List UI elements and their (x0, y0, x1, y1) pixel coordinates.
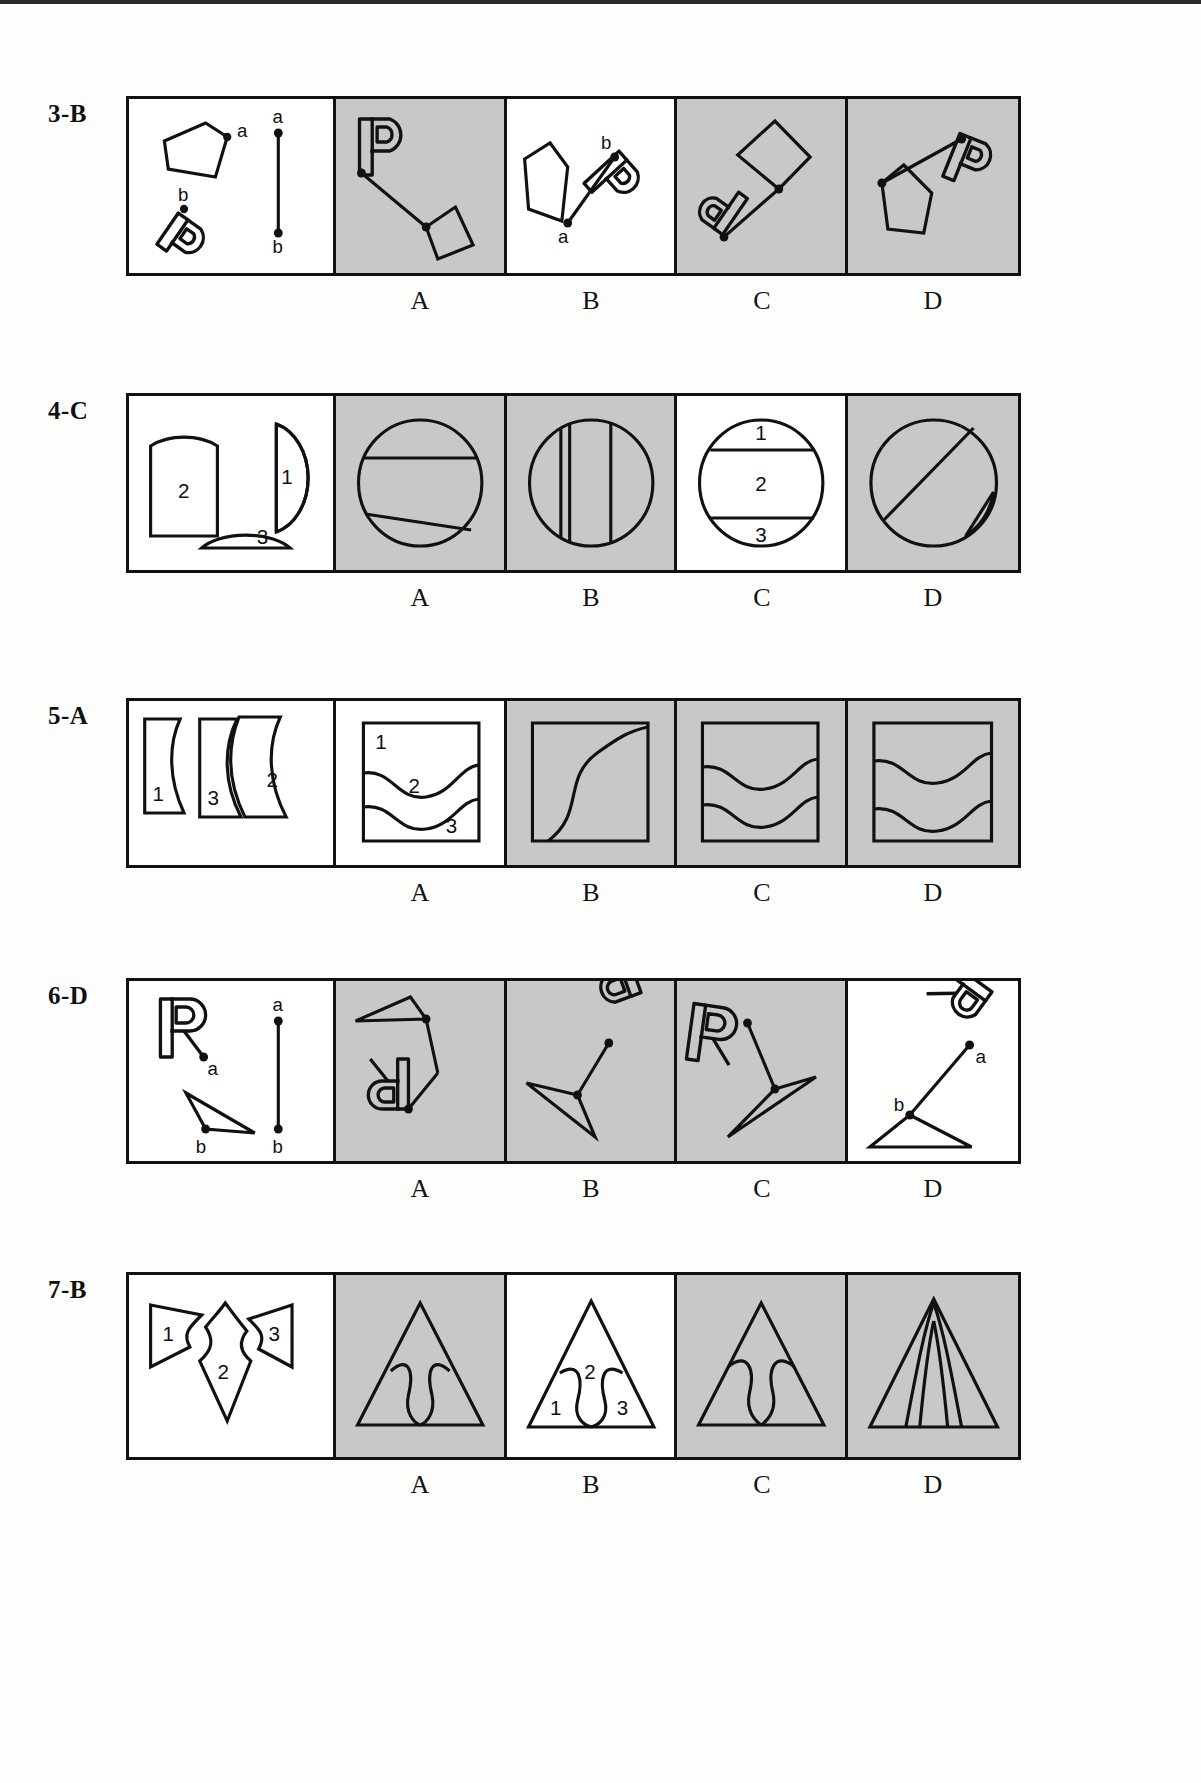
row-5-choice-b: B (571, 878, 611, 908)
row-3-strip: a b a b (126, 96, 1021, 276)
row-6-option-d-label-a: a (975, 1046, 986, 1067)
row-6-stem-label-a2: a (272, 994, 283, 1015)
row-6-strip: a b a b (126, 978, 1021, 1164)
row-5-option-b[interactable] (507, 701, 677, 865)
row-label-7: 7-B (48, 1276, 87, 1304)
row-7-choice-d: D (913, 1470, 953, 1500)
row-7-choice-b: B (571, 1470, 611, 1500)
row-5-stem-num-2: 2 (267, 768, 278, 791)
row-6-option-d-label-b: b (893, 1094, 904, 1115)
row-5-option-c[interactable] (677, 701, 847, 865)
row-4-stem-panel: 2 1 3 (129, 396, 336, 570)
row-5-option-d[interactable] (848, 701, 1018, 865)
row-4-choice-d: D (913, 583, 953, 613)
row-7-stem-panel: 1 2 3 (129, 1275, 336, 1457)
row-5-choice-d: D (913, 878, 953, 908)
row-4-option-a[interactable] (336, 396, 506, 570)
row-5-option-a[interactable]: 1 2 3 (336, 701, 506, 865)
row-4-stem-num-1: 1 (281, 465, 292, 488)
row-6-option-a[interactable] (336, 981, 506, 1161)
row-7-option-c[interactable] (677, 1275, 847, 1457)
row-7-choice-c: C (742, 1470, 782, 1500)
row-3-choice-labels: A B C D (126, 286, 1021, 320)
row-5-option-a-num-1: 1 (375, 730, 386, 753)
row-6-option-c[interactable] (677, 981, 847, 1161)
row-4-choice-labels: A B C D (126, 583, 1021, 617)
row-6-stem-label-b1: b (196, 1136, 206, 1157)
row-3-choice-d: D (913, 286, 953, 316)
row-3-stem-label-b1: b (178, 184, 188, 205)
row-7-option-a[interactable] (336, 1275, 506, 1457)
row-3-option-b-label-b: b (601, 132, 611, 153)
row-3-option-c[interactable] (677, 99, 847, 273)
row-3-option-b[interactable]: a b (507, 99, 677, 273)
row-3-choice-c: C (742, 286, 782, 316)
row-7-stem-num-1: 1 (162, 1322, 173, 1345)
page-root: 3-B a b a (0, 0, 1201, 1783)
row-6-choice-a: A (400, 1174, 440, 1204)
row-4-option-d[interactable] (848, 396, 1018, 570)
row-7-choice-labels: A B C D (126, 1470, 1021, 1504)
row-5-stem-panel: 1 3 2 (129, 701, 336, 865)
row-3-choice-a: A (400, 286, 440, 316)
row-7-option-b-num-3: 3 (616, 1396, 627, 1419)
row-7-choice-a: A (400, 1470, 440, 1500)
row-7-strip: 1 2 3 2 (126, 1272, 1021, 1460)
row-5-stem-num-3: 3 (208, 786, 219, 809)
row-4-option-c-num-3: 3 (755, 523, 766, 546)
row-5-option-a-num-3: 3 (446, 814, 457, 837)
row-7-option-b[interactable]: 2 1 3 (507, 1275, 677, 1457)
row-5-choice-labels: A B C D (126, 878, 1021, 912)
row-4-strip: 2 1 3 (126, 393, 1021, 573)
row-4-choice-c: C (742, 583, 782, 613)
top-rule-divider (0, 0, 1201, 4)
row-5-strip: 1 3 2 1 2 3 (126, 698, 1021, 868)
row-5-stem-num-1: 1 (153, 782, 164, 805)
row-label-3: 3-B (48, 100, 87, 128)
row-5-option-a-num-2: 2 (409, 774, 420, 797)
row-7-option-b-num-2: 2 (584, 1360, 595, 1383)
row-7-stem-num-3: 3 (268, 1322, 279, 1345)
row-3-choice-b: B (571, 286, 611, 316)
row-4-stem-num-2: 2 (178, 479, 189, 502)
row-4-option-b[interactable] (507, 396, 677, 570)
row-7-stem-num-2: 2 (217, 1360, 228, 1383)
row-4-option-c[interactable]: 1 2 3 (677, 396, 847, 570)
row-6-stem-label-a1: a (208, 1058, 219, 1079)
row-5-choice-a: A (400, 878, 440, 908)
row-4-choice-a: A (400, 583, 440, 613)
row-4-option-c-num-1: 1 (755, 421, 766, 444)
row-5-choice-c: C (742, 878, 782, 908)
row-3-option-d[interactable] (848, 99, 1018, 273)
row-4-choice-b: B (571, 583, 611, 613)
row-3-stem-label-b2: b (272, 236, 282, 257)
row-6-choice-b: B (571, 1174, 611, 1204)
row-3-stem-label-a2: a (272, 106, 283, 127)
row-3-stem-panel: a b a b (129, 99, 336, 273)
row-label-6: 6-D (48, 982, 88, 1010)
row-4-stem-num-3: 3 (257, 525, 268, 548)
row-4-option-c-num-2: 2 (755, 472, 766, 495)
row-6-choice-c: C (742, 1174, 782, 1204)
row-6-option-d[interactable]: a b (848, 981, 1018, 1161)
row-6-stem-label-b2: b (272, 1136, 282, 1157)
row-label-4: 4-C (48, 397, 88, 425)
row-7-option-d[interactable] (848, 1275, 1018, 1457)
row-6-choice-labels: A B C D (126, 1174, 1021, 1208)
row-label-5: 5-A (48, 702, 88, 730)
row-6-stem-panel: a b a b (129, 981, 336, 1161)
row-7-option-b-num-1: 1 (550, 1396, 561, 1419)
row-3-option-a[interactable] (336, 99, 506, 273)
row-3-stem-label-a1: a (237, 120, 248, 141)
row-6-option-b[interactable] (507, 981, 677, 1161)
row-6-choice-d: D (913, 1174, 953, 1204)
row-3-option-b-label-a: a (558, 226, 569, 247)
